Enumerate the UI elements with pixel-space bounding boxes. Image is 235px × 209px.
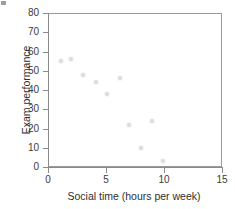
y-axis-spine [48,13,49,168]
data-point [127,123,131,127]
x-axis-title: Social time (hours per week) [34,190,234,202]
data-point [139,146,143,150]
data-point [105,92,109,96]
y-tick-mark [43,109,48,110]
data-point [59,59,63,63]
y-tick-mark [43,13,48,14]
data-point [81,73,85,77]
y-tick-mark [43,32,48,33]
scatter-chart-figure: 01020304050607080 051015 Social time (ho… [0,0,235,209]
y-tick-mark [43,52,48,53]
y-tick-mark [43,71,48,72]
x-tick-label: 10 [152,175,176,185]
data-point [94,80,98,84]
x-tick-label: 5 [94,175,118,185]
x-tick-mark [106,168,107,173]
x-tick-label: 15 [210,175,234,185]
x-tick-mark [222,168,223,173]
x-axis-spine [48,167,223,168]
plot-area [48,13,222,167]
x-tick-label: 0 [36,175,60,185]
y-tick-label: 0 [17,162,39,172]
scan-artifact [1,1,6,5]
x-tick-mark [164,168,165,173]
y-tick-mark [43,90,48,91]
y-tick-mark [43,148,48,149]
y-tick-mark [43,129,48,130]
y-tick-label: 80 [17,8,39,18]
y-axis-title: Exam performance [20,20,32,160]
x-tick-mark [48,168,49,173]
